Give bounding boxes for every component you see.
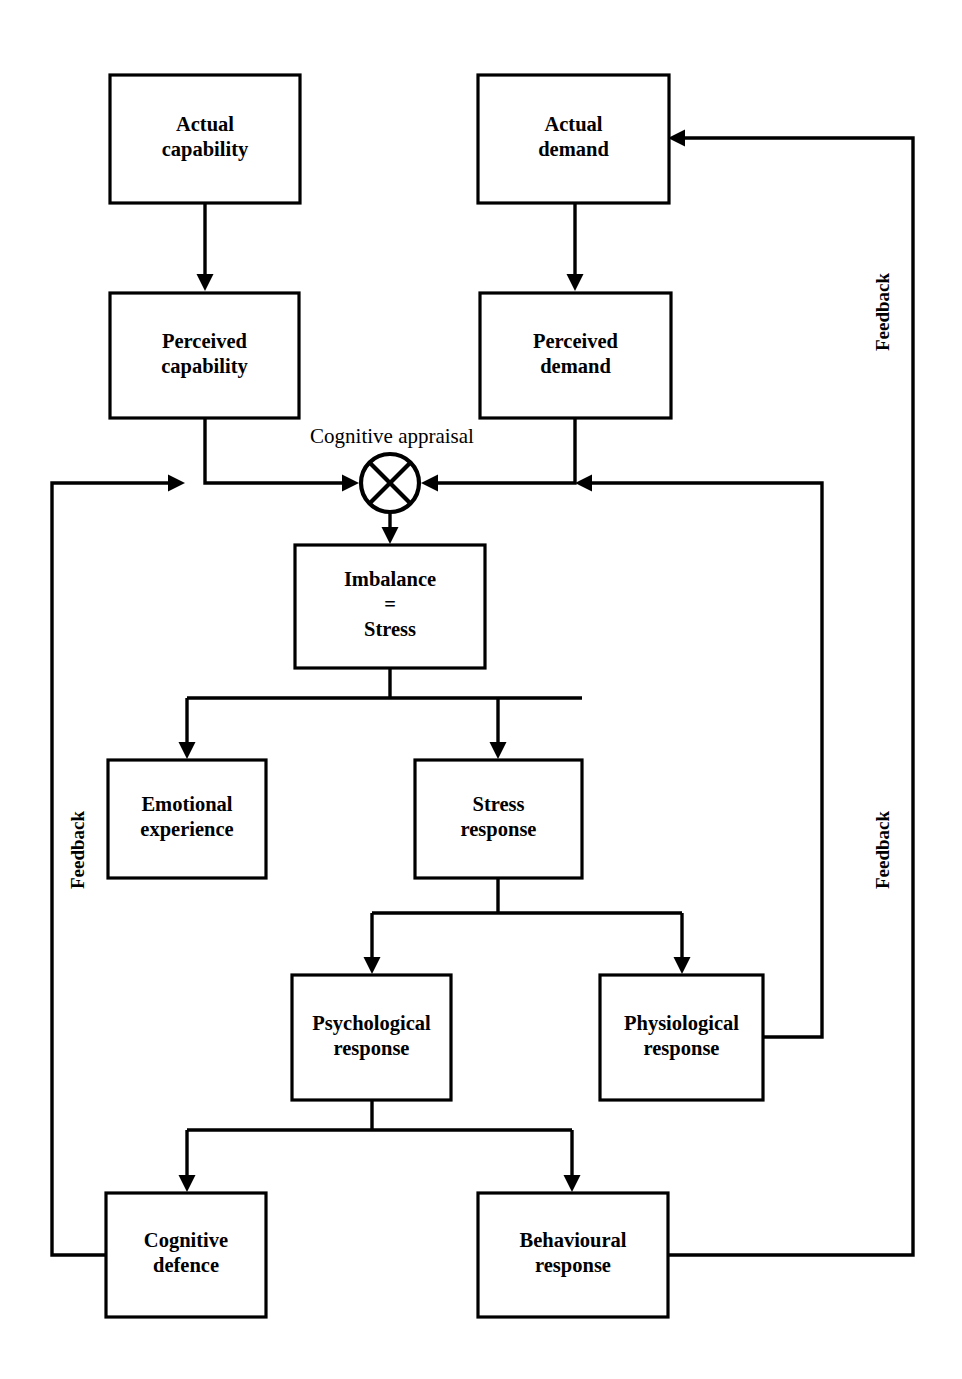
box-label-cognitive-defence-line1: Cognitive bbox=[144, 1229, 228, 1252]
arrowhead-stress-to-psychological bbox=[364, 957, 381, 974]
label-feedback-left: Feedback bbox=[67, 811, 88, 890]
box-psychological-response: Psychologicalresponse bbox=[292, 975, 451, 1100]
box-label-imbalance-stress-line3: Stress bbox=[364, 618, 416, 640]
arrowhead-stress-to-physiological bbox=[674, 957, 691, 974]
box-physiological-response: Physiologicalresponse bbox=[600, 975, 763, 1100]
box-label-physiological-response-line2: response bbox=[644, 1037, 720, 1060]
arrowhead-psychological-to-behavioural bbox=[564, 1175, 581, 1192]
label-feedback-right-lower: Feedback bbox=[872, 811, 893, 890]
box-stress-response: Stressresponse bbox=[415, 760, 582, 878]
box-label-actual-capability-line1: Actual bbox=[176, 113, 234, 135]
box-label-imbalance-stress-line2: = bbox=[384, 593, 396, 615]
cognitive-appraisal-node: Cognitive appraisal bbox=[310, 424, 474, 512]
box-cognitive-defence: Cognitivedefence bbox=[106, 1193, 266, 1317]
arrowhead-psychological-to-cognitive-defence bbox=[179, 1175, 196, 1192]
box-label-emotional-experience-line2: experience bbox=[140, 818, 233, 841]
box-label-perceived-capability-line1: Perceived bbox=[162, 330, 248, 352]
arrowhead-feedback-left-loop bbox=[168, 475, 185, 492]
arrowhead-appraisal-to-imbalance bbox=[382, 527, 399, 544]
flowchart-diagram: ActualcapabilityActualdemandPerceivedcap… bbox=[0, 0, 962, 1379]
box-actual-capability: Actualcapability bbox=[110, 75, 300, 203]
box-emotional-experience: Emotionalexperience bbox=[108, 760, 266, 878]
connector-stress-response-split-bar bbox=[372, 878, 682, 913]
connector-imbalance-split-bar bbox=[187, 668, 582, 698]
box-label-psychological-response-line1: Psychological bbox=[312, 1012, 431, 1035]
box-label-physiological-response-line1: Physiological bbox=[624, 1012, 739, 1035]
box-actual-demand: Actualdemand bbox=[478, 75, 669, 203]
box-behavioural-response: Behaviouralresponse bbox=[478, 1193, 668, 1317]
box-label-cognitive-defence-line2: defence bbox=[153, 1254, 219, 1276]
box-perceived-capability: Perceivedcapability bbox=[110, 293, 299, 418]
box-label-perceived-capability-line2: capability bbox=[161, 355, 248, 378]
connector-psychological-split-bar bbox=[187, 1100, 572, 1130]
connector-feedback-inner-right-loop bbox=[586, 483, 822, 1037]
arrowhead-actual-capability-to-perceived-capability bbox=[197, 274, 214, 291]
box-label-actual-demand-line1: Actual bbox=[544, 113, 602, 135]
box-label-behavioural-response-line1: Behavioural bbox=[519, 1229, 626, 1251]
appraisal-node-layer: Cognitive appraisal bbox=[310, 424, 474, 512]
box-label-actual-capability-line2: capability bbox=[162, 138, 249, 161]
box-label-behavioural-response-line2: response bbox=[535, 1254, 611, 1277]
arrowhead-actual-demand-to-perceived-demand bbox=[567, 274, 584, 291]
box-label-perceived-demand-line2: demand bbox=[540, 355, 611, 377]
box-label-perceived-demand-line1: Perceived bbox=[533, 330, 619, 352]
box-label-emotional-experience-line1: Emotional bbox=[141, 793, 232, 815]
box-label-stress-response-line2: response bbox=[461, 818, 537, 841]
arrowhead-perceived-capability-to-appraisal bbox=[342, 475, 359, 492]
cognitive-appraisal-label: Cognitive appraisal bbox=[310, 424, 474, 448]
arrowhead-imbalance-to-stress-response bbox=[490, 742, 507, 759]
flowchart-canvas: ActualcapabilityActualdemandPerceivedcap… bbox=[0, 0, 962, 1379]
arrowhead-imbalance-to-emotional bbox=[179, 742, 196, 759]
box-label-imbalance-stress-line1: Imbalance bbox=[344, 568, 436, 590]
box-label-actual-demand-line2: demand bbox=[538, 138, 609, 160]
arrowhead-perceived-demand-to-appraisal bbox=[421, 475, 438, 492]
box-label-psychological-response-line2: response bbox=[334, 1037, 410, 1060]
label-feedback-right-upper: Feedback bbox=[872, 273, 893, 352]
arrowhead-feedback-inner-right-loop bbox=[575, 475, 592, 492]
box-imbalance-stress: Imbalance=Stress bbox=[295, 545, 485, 668]
box-perceived-demand: Perceiveddemand bbox=[480, 293, 671, 418]
box-label-stress-response-line1: Stress bbox=[472, 793, 524, 815]
